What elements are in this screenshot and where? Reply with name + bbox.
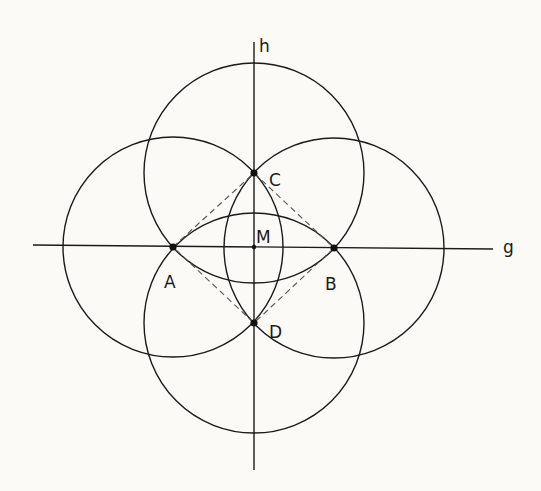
point-A [169, 243, 176, 250]
point-label-B: B [325, 274, 337, 294]
point-label-C: C [269, 170, 281, 190]
line-label-h: h [259, 36, 270, 56]
point-label-A: A [164, 272, 176, 292]
point-B [330, 244, 337, 251]
point-label-M: M [256, 227, 271, 247]
point-label-D: D [269, 322, 282, 342]
construction-diagram: h g ABCDM [0, 0, 541, 491]
point-C [250, 169, 257, 176]
lines [33, 42, 493, 470]
point-D [250, 319, 257, 326]
line-label-g: g [503, 237, 514, 257]
